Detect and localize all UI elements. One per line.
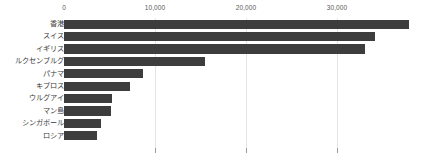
category-label: ウルグアイ [0,92,64,104]
bar-track [64,68,421,80]
category-label: イギリス [0,43,64,55]
x-axis-tick-label: 0 [62,4,66,11]
bar-track [64,55,421,67]
bar-row[interactable]: マン島 [0,105,421,117]
x-axis-tick-label: 30,000 [327,4,347,11]
axis-tick-mark [246,148,247,153]
bar-row[interactable]: スイス [0,30,421,42]
bar-track [64,18,421,30]
bar[interactable] [64,119,101,128]
bar[interactable] [64,32,375,41]
category-label: ロシア [0,130,64,142]
bar[interactable] [64,94,112,103]
category-label: シンガポール [0,117,64,129]
axis-tick-mark [155,148,156,153]
x-axis-tick-label: 20,000 [236,4,256,11]
bar-row[interactable]: シンガポール [0,117,421,129]
bar[interactable] [64,106,111,115]
bar-track [64,105,421,117]
bar-track [64,92,421,104]
bar-row[interactable]: イギリス [0,43,421,55]
bar[interactable] [64,82,130,91]
bar-row[interactable]: パナマ [0,68,421,80]
x-axis-bottom-ticks [0,148,421,156]
bar-track [64,130,421,142]
bar-row[interactable]: ルクセンブルグ [0,55,421,67]
bar-track [64,43,421,55]
horizontal-bar-chart: 010,00020,00030,000 香港スイスイギリスルクセンブルグパナマキ… [0,0,421,159]
bar[interactable] [64,44,365,53]
bar-track [64,80,421,92]
bar-track [64,117,421,129]
x-axis-tick-labels: 010,00020,00030,000 [0,0,421,18]
plot-area: 香港スイスイギリスルクセンブルグパナマキプロスウルグアイマン島シンガポールロシア [0,18,421,150]
category-label: 香港 [0,18,64,30]
bar-row[interactable]: ロシア [0,130,421,142]
axis-tick-mark [337,148,338,153]
x-axis-tick-label: 10,000 [145,4,165,11]
bar[interactable] [64,20,409,29]
bar-row[interactable]: ウルグアイ [0,92,421,104]
bar[interactable] [64,57,205,66]
bar[interactable] [64,131,97,140]
bar-row[interactable]: キプロス [0,80,421,92]
bar[interactable] [64,69,143,78]
category-label: ルクセンブルグ [0,55,64,67]
category-label: スイス [0,30,64,42]
bar-row[interactable]: 香港 [0,18,421,30]
bar-track [64,30,421,42]
category-label: パナマ [0,68,64,80]
category-label: マン島 [0,105,64,117]
category-label: キプロス [0,80,64,92]
